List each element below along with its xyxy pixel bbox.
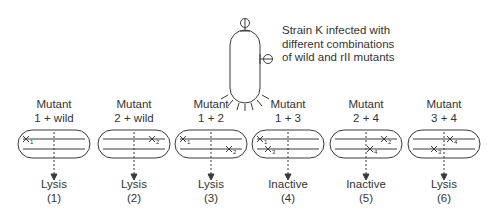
cross-result-3: Lysis(3) — [171, 177, 251, 205]
phage-icon-right — [260, 54, 273, 64]
cross-label-3: Mutant1 + 2 — [171, 97, 251, 125]
svg-text:2: 2 — [233, 149, 237, 155]
cross-label-4: Mutant1 + 3 — [248, 97, 328, 125]
result-number: (5) — [326, 191, 406, 205]
infected-cell-4: 13 — [252, 130, 324, 180]
svg-text:1: 1 — [30, 139, 34, 145]
result-text: Lysis — [171, 177, 251, 191]
infected-cell-2: 2 — [98, 130, 170, 180]
cross-result-4: Inactive(4) — [248, 177, 328, 205]
result-number: (6) — [404, 191, 484, 205]
svg-text:2: 2 — [156, 139, 160, 145]
svg-text:1: 1 — [264, 139, 268, 145]
caption-line: of wild and rII mutants — [282, 51, 395, 65]
result-text: Lysis — [14, 177, 94, 191]
svg-text:3: 3 — [438, 149, 442, 155]
result-number: (3) — [171, 191, 251, 205]
cross-label-line2: 3 + 4 — [404, 111, 484, 125]
phage-icon-top — [240, 19, 250, 32]
cross-label-line2: 2 + wild — [94, 111, 174, 125]
result-text: Lysis — [94, 177, 174, 191]
cross-label-6: Mutant3 + 4 — [404, 97, 484, 125]
result-number: (4) — [248, 191, 328, 205]
svg-text:4: 4 — [374, 149, 378, 155]
cross-result-6: Lysis(6) — [404, 177, 484, 205]
infected-cell-1: 1 — [18, 130, 90, 180]
result-number: (2) — [94, 191, 174, 205]
cross-label-line1: Mutant — [404, 97, 484, 111]
cross-label-line2: 1 + wild — [14, 111, 94, 125]
cross-label-line1: Mutant — [171, 97, 251, 111]
cross-label-line2: 2 + 4 — [326, 111, 406, 125]
infected-cell-3: 12 — [175, 130, 247, 180]
cross-result-2: Lysis(2) — [94, 177, 174, 205]
result-text: Inactive — [248, 177, 328, 191]
caption-line: different combinations — [282, 38, 395, 52]
cross-label-line2: 1 + 2 — [171, 111, 251, 125]
cross-label-line1: Mutant — [94, 97, 174, 111]
cross-label-line1: Mutant — [14, 97, 94, 111]
cross-result-1: Lysis(1) — [14, 177, 94, 205]
cross-label-5: Mutant2 + 4 — [326, 97, 406, 125]
cross-label-1: Mutant1 + wild — [14, 97, 94, 125]
caption-line: Strain K infected with — [282, 24, 395, 38]
infected-cell-6: 43 — [408, 130, 480, 180]
svg-text:4: 4 — [454, 139, 458, 145]
svg-text:1: 1 — [187, 139, 191, 145]
host-caption: Strain K infected with different combina… — [282, 24, 395, 65]
result-number: (1) — [14, 191, 94, 205]
svg-text:3: 3 — [272, 149, 276, 155]
result-text: Lysis — [404, 177, 484, 191]
cross-label-line1: Mutant — [326, 97, 406, 111]
cross-label-line2: 1 + 3 — [248, 111, 328, 125]
cross-label-line1: Mutant — [248, 97, 328, 111]
svg-text:2: 2 — [388, 139, 392, 145]
result-text: Inactive — [326, 177, 406, 191]
cross-label-2: Mutant2 + wild — [94, 97, 174, 125]
infected-cell-5: 24 — [330, 130, 402, 180]
host-bacterium — [230, 30, 260, 103]
cross-result-5: Inactive(5) — [326, 177, 406, 205]
